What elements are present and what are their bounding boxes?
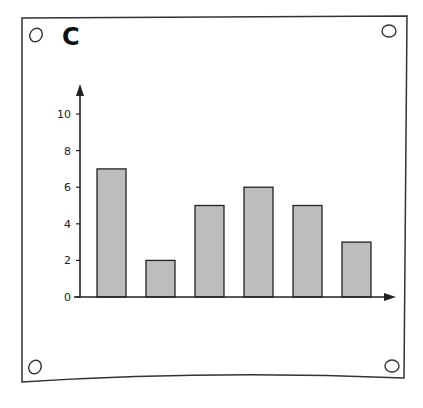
y-tick-label: 4 xyxy=(64,218,71,231)
y-tick-label: 6 xyxy=(64,181,71,194)
y-tick-label: 2 xyxy=(64,254,71,267)
bar xyxy=(146,260,175,297)
bar xyxy=(195,206,224,298)
panel-label: C xyxy=(62,23,80,51)
bar xyxy=(293,206,322,298)
y-tick-label: 10 xyxy=(57,108,71,121)
bar xyxy=(97,169,126,297)
bar xyxy=(342,242,371,297)
bar xyxy=(244,187,273,297)
y-tick-label: 0 xyxy=(64,291,71,304)
y-tick-label: 8 xyxy=(64,145,71,158)
chart-card: C 0246810 xyxy=(0,0,423,408)
